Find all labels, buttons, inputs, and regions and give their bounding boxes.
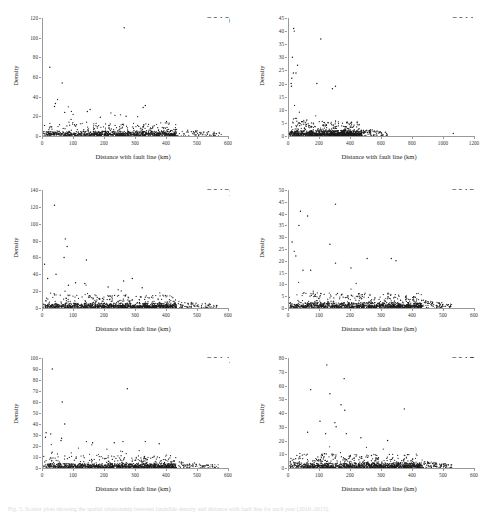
y-tick-label: 70 — [16, 388, 38, 394]
x-axis-title-2014: Distance with fault line (km) — [38, 485, 228, 492]
y-tick-mark — [285, 284, 287, 285]
y-tick-label: 100 — [16, 355, 38, 361]
x-tick-mark — [381, 137, 382, 139]
x-tick-label: 600 — [224, 312, 232, 318]
y-tick-mark — [39, 274, 41, 275]
x-tick-label: 400 — [162, 140, 170, 146]
y-tick-label: 30 — [262, 54, 284, 60]
y-tick-label: 40 — [16, 271, 38, 277]
y-tick-mark — [39, 308, 41, 309]
y-tick-label: 50 — [262, 396, 284, 402]
figure-caption: Fig. 5. Scatter plots showing the spatia… — [8, 505, 482, 523]
y-tick-mark — [39, 391, 41, 392]
y-axis-title-2012: Density — [12, 228, 19, 268]
y-tick-mark — [285, 214, 287, 215]
panel-2014: 2014 Density Distance with fault line (k… — [0, 344, 244, 500]
y-tick-mark — [39, 136, 41, 137]
panel-2013: 2013 Density Distance with fault line (k… — [244, 172, 489, 344]
y-tick-label: 35 — [262, 41, 284, 47]
y-tick-label: 0 — [262, 465, 284, 471]
y-tick-label: 60 — [262, 383, 284, 389]
y-tick-mark — [285, 261, 287, 262]
x-tick-mark — [474, 309, 475, 311]
y-tick-mark — [285, 18, 287, 19]
x-tick-mark — [135, 137, 136, 139]
y-tick-label: 0 — [262, 305, 284, 311]
y-tick-mark — [285, 468, 287, 469]
x-tick-mark — [381, 309, 382, 311]
y-tick-label: 120 — [16, 15, 38, 21]
y-tick-label: 80 — [262, 355, 284, 361]
y-tick-mark — [39, 190, 41, 191]
x-tick-label: 500 — [193, 312, 201, 318]
y-tick-mark — [285, 358, 287, 359]
x-tick-mark — [319, 469, 320, 471]
x-tick-mark — [197, 309, 198, 311]
figure-container: 2010 Density Distance with fault line (k… — [0, 0, 489, 525]
x-tick-label: 600 — [377, 140, 385, 146]
y-tick-label: 100 — [16, 221, 38, 227]
x-tick-label: 0 — [41, 472, 44, 478]
y-tick-mark — [39, 18, 41, 19]
y-tick-mark — [39, 38, 41, 39]
y-tick-label: 80 — [16, 238, 38, 244]
scatter-plot-2011 — [289, 18, 475, 136]
x-tick-mark — [228, 137, 229, 139]
y-tick-mark — [285, 273, 287, 274]
x-tick-mark — [412, 309, 413, 311]
y-tick-label: 50 — [16, 410, 38, 416]
y-tick-label: 10 — [16, 454, 38, 460]
y-tick-label: 60 — [16, 254, 38, 260]
x-tick-mark — [166, 137, 167, 139]
x-tick-label: 200 — [100, 312, 108, 318]
y-tick-mark — [39, 224, 41, 225]
x-tick-label: 1000 — [438, 140, 448, 146]
panel-2010: 2010 Density Distance with fault line (k… — [0, 0, 244, 172]
x-tick-mark — [73, 469, 74, 471]
y-tick-mark — [39, 380, 41, 381]
y-tick-label: 50 — [262, 187, 284, 193]
y-tick-mark — [39, 291, 41, 292]
x-tick-mark — [443, 137, 444, 139]
y-tick-mark — [39, 257, 41, 258]
x-tick-label: 400 — [408, 312, 416, 318]
x-tick-mark — [104, 469, 105, 471]
x-tick-label: 200 — [100, 472, 108, 478]
y-tick-label: 140 — [16, 187, 38, 193]
panel-2012: 2012 Density Distance with fault line (k… — [0, 172, 244, 344]
y-tick-label: 5 — [262, 120, 284, 126]
y-tick-label: 45 — [262, 15, 284, 21]
x-tick-mark — [443, 469, 444, 471]
x-tick-label: 400 — [408, 472, 416, 478]
y-tick-label: 80 — [16, 54, 38, 60]
x-tick-label: 0 — [41, 312, 44, 318]
x-tick-label: 100 — [69, 472, 77, 478]
scatter-plot-2015 — [289, 358, 475, 468]
x-tick-mark — [350, 137, 351, 139]
y-tick-label: 0 — [262, 133, 284, 139]
y-tick-label: 20 — [16, 288, 38, 294]
x-axis-title-2015: Distance with fault line (km) — [284, 485, 474, 492]
y-tick-mark — [285, 372, 287, 373]
x-tick-label: 200 — [315, 140, 323, 146]
y-tick-mark — [39, 97, 41, 98]
x-tick-label: 0 — [287, 472, 290, 478]
y-tick-mark — [39, 116, 41, 117]
x-tick-mark — [228, 469, 229, 471]
y-tick-mark — [39, 446, 41, 447]
x-tick-mark — [443, 309, 444, 311]
y-tick-mark — [285, 84, 287, 85]
y-tick-mark — [285, 202, 287, 203]
x-tick-label: 0 — [287, 140, 290, 146]
x-tick-mark — [288, 469, 289, 471]
x-tick-label: 600 — [224, 472, 232, 478]
x-tick-mark — [288, 137, 289, 139]
x-tick-mark — [104, 309, 105, 311]
y-tick-label: 60 — [16, 74, 38, 80]
y-tick-mark — [39, 57, 41, 58]
y-tick-mark — [285, 44, 287, 45]
x-tick-mark — [197, 469, 198, 471]
x-tick-label: 400 — [162, 312, 170, 318]
y-tick-mark — [285, 386, 287, 387]
y-tick-mark — [39, 457, 41, 458]
